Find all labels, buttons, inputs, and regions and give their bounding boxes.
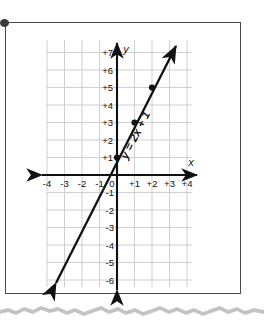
x-tick-label: +4	[182, 178, 193, 189]
y-tick-label: -3	[106, 222, 114, 233]
y-tick-label: +5	[102, 82, 113, 93]
plot-point	[149, 84, 155, 90]
x-tick-label: -2	[78, 178, 86, 189]
equation-label: y = 2x + 1	[118, 109, 153, 161]
x-tick-label: +1	[129, 178, 140, 189]
x-tick-label: -1	[95, 178, 103, 189]
coordinate-plane-graph: x y -4 -3 -2 -1 0 +1 +2 +3 +4 +7 +6 +5 +…	[0, 0, 264, 327]
y-tick-label: +1	[102, 152, 113, 163]
y-tick-label: -1	[106, 187, 114, 198]
worksheet-page: x y -4 -3 -2 -1 0 +1 +2 +3 +4 +7 +6 +5 +…	[0, 0, 264, 327]
y-tick-label: -5	[106, 257, 114, 268]
x-tick-label: +3	[164, 178, 175, 189]
y-tick-label: -2	[106, 205, 114, 216]
y-tick-label: +3	[102, 117, 113, 128]
y-tick-labels: +7 +6 +5 +4 +3 +2 +1 -1 -2 -3 -4 -5 -6	[102, 47, 114, 286]
y-tick-label: +4	[102, 100, 113, 111]
x-tick-label: +2	[147, 178, 158, 189]
y-tick-label: +6	[102, 65, 113, 76]
y-axis-label: y	[122, 43, 130, 55]
x-tick-label: -3	[60, 178, 68, 189]
x-tick-label: -4	[43, 178, 51, 189]
y-tick-label: -4	[106, 240, 114, 251]
torn-paper-edge	[0, 301, 264, 327]
x-axis-label: x	[187, 156, 194, 168]
y-tick-label: -6	[106, 275, 114, 286]
y-tick-label: +2	[102, 135, 113, 146]
y-tick-label: +7	[102, 47, 113, 58]
gridlines	[47, 40, 192, 287]
